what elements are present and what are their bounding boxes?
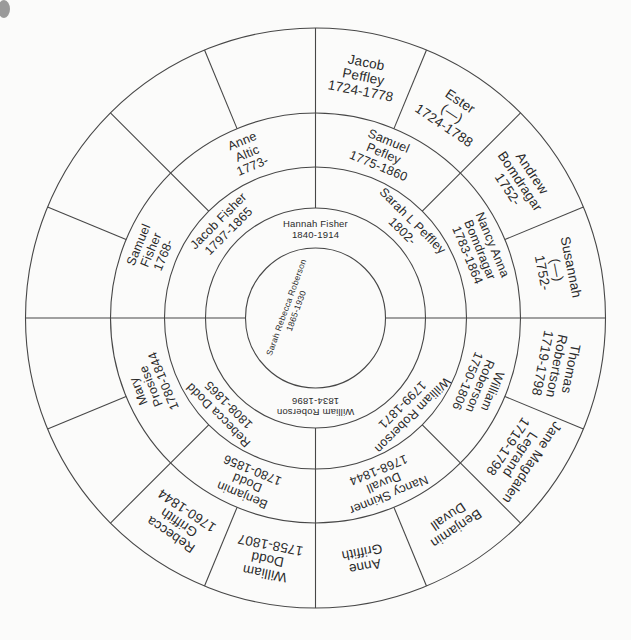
person-william-roberson-1834-line-1: 1834-1896 bbox=[292, 396, 339, 407]
person-susannah: Susannah(—)1752- bbox=[529, 235, 584, 305]
person-hannah-fisher-line-1: 1840-1914 bbox=[292, 229, 339, 240]
segment-divider bbox=[205, 50, 238, 129]
person-anne-griffith: AnneGriffith bbox=[340, 541, 386, 578]
person-thomas-robertson: ThomasRobertson1719-1798 bbox=[529, 329, 585, 403]
person-hannah-fisher-line-0: Hannah Fisher bbox=[283, 218, 348, 229]
person-nancy-anna-bomdragar: Nancy AnnaBomdragar1783-1864 bbox=[448, 210, 512, 290]
person-benjamin-dodd: BenjaminDodd1780-1856 bbox=[211, 452, 284, 513]
segment-divider bbox=[394, 507, 427, 586]
person-hannah-fisher: Hannah Fisher1840-1914 bbox=[283, 218, 348, 240]
person-samuel-fisher: SamuelFisher1768- bbox=[124, 222, 179, 278]
fan-chart-svg: Sarah Rebecca Roberson1865-1930Hannah Fi… bbox=[0, 0, 631, 640]
person-william-roberson-1834: William Roberson1834-1896 bbox=[277, 396, 355, 418]
segment-divider bbox=[110, 113, 208, 211]
person-william-roberson-1834-line-0: William Roberson bbox=[277, 407, 355, 418]
person-andrew-bomdragar: AndrewBomdragar1752- bbox=[483, 141, 558, 223]
person-anne-altic: AnneAltic1773- bbox=[224, 128, 270, 179]
person-nancy-skinner-duvall: Nancy SkinnerDuvall1768-1844 bbox=[337, 447, 430, 517]
fan-chart: Sarah Rebecca Roberson1865-1930Hannah Fi… bbox=[0, 0, 631, 640]
person-rebecca-griffith: RebeccaGriffith1760-1844 bbox=[139, 486, 219, 560]
person-william-roberson-1750: WilliamRoberson1750-1806 bbox=[449, 350, 510, 423]
person-ester: Ester(—)1724-1788 bbox=[412, 77, 492, 150]
ring-circle-0 bbox=[246, 248, 386, 388]
person-benjamin-duvall: BenjaminDuvall bbox=[420, 494, 485, 551]
person-sarah-rebecca-roberson: Sarah Rebecca Roberson1865-1930 bbox=[264, 258, 318, 361]
scan-artifact bbox=[0, 0, 10, 18]
person-william-dodd: WilliamDodd1758-1807 bbox=[231, 531, 305, 587]
segment-divider bbox=[48, 396, 127, 429]
person-mary-prosise: MaryProsise1780-1844 bbox=[120, 350, 181, 423]
person-samuel-pefley: SamuelPefley1775-1860 bbox=[347, 123, 420, 184]
person-jacob-peffley: JacobPeffley1724-1778 bbox=[327, 49, 401, 105]
segment-divider bbox=[48, 207, 127, 240]
